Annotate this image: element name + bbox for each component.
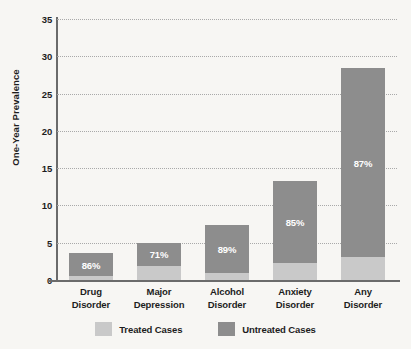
- y-axis-tick: 5: [30, 237, 52, 248]
- bar-segment-treated[interactable]: [205, 273, 249, 280]
- chart-legend: Treated CasesUntreated Cases: [0, 322, 411, 336]
- bar-group[interactable]: 85%: [273, 19, 317, 280]
- bar-stack[interactable]: [341, 68, 385, 280]
- x-axis-tick-line: Any: [320, 285, 406, 298]
- y-axis-title: One-Year Prevalence: [10, 58, 21, 178]
- bar-value-label: 87%: [341, 157, 385, 168]
- legend-label: Treated Cases: [119, 324, 182, 335]
- plot-area: 86%71%89%85%87%: [57, 19, 397, 280]
- y-axis-tick: 25: [30, 88, 52, 99]
- bar-group[interactable]: 89%: [205, 19, 249, 280]
- bar-value-label: 89%: [205, 244, 249, 255]
- x-axis-line: [48, 280, 400, 282]
- bar-segment-treated[interactable]: [341, 257, 385, 280]
- legend-item[interactable]: Treated Cases: [95, 322, 182, 336]
- x-axis-tick-any-disorder: AnyDisorder: [320, 285, 406, 311]
- bar-group[interactable]: 87%: [341, 19, 385, 280]
- y-axis-tick: 20: [30, 125, 52, 136]
- chart-figure: One-Year Prevalence 05101520253035 86%71…: [0, 0, 411, 349]
- y-axis-tick: 15: [30, 163, 52, 174]
- legend-item[interactable]: Untreated Cases: [218, 322, 315, 336]
- legend-swatch-icon: [218, 322, 235, 336]
- bar-value-label: 85%: [273, 216, 317, 227]
- y-axis-tick-labels: 05101520253035: [26, 19, 52, 280]
- bar-segment-treated[interactable]: [137, 266, 181, 280]
- bar-group[interactable]: 86%: [69, 19, 113, 280]
- bar-value-label: 86%: [69, 259, 113, 270]
- bar-segment-treated[interactable]: [69, 276, 113, 280]
- legend-swatch-icon: [95, 322, 112, 336]
- x-axis-tick-labels: DrugDisorderMajorDepressionAlcoholDisord…: [57, 285, 397, 317]
- y-axis-tick: 10: [30, 200, 52, 211]
- x-axis-tick-line: Disorder: [320, 298, 406, 311]
- legend-label: Untreated Cases: [242, 324, 315, 335]
- bar-group[interactable]: 71%: [137, 19, 181, 280]
- y-axis-tick: 35: [30, 14, 52, 25]
- bar-segment-treated[interactable]: [273, 263, 317, 280]
- bar-value-label: 71%: [137, 249, 181, 260]
- bar-stack[interactable]: [273, 181, 317, 280]
- y-axis-tick: 30: [30, 51, 52, 62]
